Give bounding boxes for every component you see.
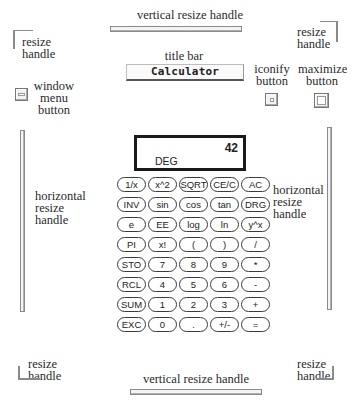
display-angle-mode: DEG	[155, 155, 178, 167]
key-tan[interactable]: tan	[210, 197, 239, 212]
top-vertical-resize-handle[interactable]	[110, 26, 242, 32]
iconify-button-label: iconify button	[252, 63, 292, 87]
key-divide[interactable]: /	[241, 237, 270, 252]
key-decimal[interactable]: .	[179, 317, 208, 332]
label-line: handle	[35, 214, 86, 226]
key-sin[interactable]: sin	[148, 197, 177, 212]
window-menu-button[interactable]	[15, 88, 28, 101]
key-cos[interactable]: cos	[179, 197, 208, 212]
title-bar-label: title bar	[126, 50, 242, 62]
key-open-paren[interactable]: (	[179, 237, 208, 252]
key-4[interactable]: 4	[148, 277, 177, 292]
key-reciprocal[interactable]: 1/x	[117, 177, 146, 192]
bottom-left-resize-handle[interactable]	[18, 366, 40, 380]
top-right-resize-label: resize handle	[297, 26, 330, 50]
key-5[interactable]: 5	[179, 277, 208, 292]
key-clear-entry[interactable]: CE/C	[210, 177, 239, 192]
right-horizontal-resize-handle[interactable]	[327, 127, 332, 310]
iconify-button[interactable]	[265, 93, 278, 106]
label-line: button	[32, 104, 76, 116]
key-2[interactable]: 2	[179, 297, 208, 312]
key-add[interactable]: +	[241, 297, 270, 312]
title-bar[interactable]: Calculator	[126, 64, 244, 81]
iconify-icon	[270, 98, 274, 102]
label-line: handle	[297, 38, 330, 50]
key-pi[interactable]: PI	[117, 237, 146, 252]
key-all-clear[interactable]: AC	[241, 177, 270, 192]
key-3[interactable]: 3	[210, 297, 239, 312]
label-line: button	[252, 75, 292, 87]
key-negate[interactable]: +/-	[210, 317, 239, 332]
key-e[interactable]: e	[117, 217, 146, 232]
maximize-button[interactable]	[314, 93, 329, 108]
label-line: button	[298, 75, 346, 87]
label-line: handle	[22, 48, 55, 60]
window-menu-icon	[18, 93, 25, 96]
right-horizontal-resize-label: horizontal resize handle	[273, 184, 324, 220]
label-line: handle	[273, 208, 324, 220]
key-log[interactable]: log	[179, 217, 208, 232]
display-value: 42	[225, 141, 238, 155]
key-equals[interactable]: =	[241, 317, 270, 332]
key-store[interactable]: STO	[117, 257, 146, 272]
key-8[interactable]: 8	[179, 257, 208, 272]
bottom-right-resize-handle[interactable]	[316, 366, 334, 380]
calculator-display: 42 DEG	[134, 135, 246, 171]
maximize-button-label: maximize button	[298, 63, 346, 87]
left-horizontal-resize-label: horizontal resize handle	[35, 190, 86, 226]
key-subtract[interactable]: -	[241, 277, 270, 292]
key-exchange[interactable]: EXC	[117, 317, 146, 332]
key-7[interactable]: 7	[148, 257, 177, 272]
key-inverse[interactable]: INV	[117, 197, 146, 212]
key-drg[interactable]: DRG	[241, 197, 270, 212]
key-close-paren[interactable]: )	[210, 237, 239, 252]
key-1[interactable]: 1	[148, 297, 177, 312]
top-vertical-resize-label: vertical resize handle	[110, 9, 270, 21]
key-exponent[interactable]: EE	[148, 217, 177, 232]
key-square[interactable]: x^2	[148, 177, 177, 192]
key-ln[interactable]: ln	[210, 217, 239, 232]
key-sqrt[interactable]: SQRT	[179, 177, 208, 192]
window-menu-button-label: window menu button	[32, 80, 76, 116]
key-0[interactable]: 0	[148, 317, 177, 332]
key-6[interactable]: 6	[210, 277, 239, 292]
bottom-vertical-resize-label: vertical resize handle	[130, 373, 262, 385]
key-recall[interactable]: RCL	[117, 277, 146, 292]
key-factorial[interactable]: x!	[148, 237, 177, 252]
top-left-resize-label: resize handle	[22, 36, 55, 60]
maximize-icon	[317, 96, 326, 105]
key-multiply[interactable]: *	[241, 257, 270, 272]
bottom-vertical-resize-handle[interactable]	[130, 389, 262, 395]
key-sum[interactable]: SUM	[117, 297, 146, 312]
key-power[interactable]: y^x	[241, 217, 270, 232]
key-9[interactable]: 9	[210, 257, 239, 272]
left-horizontal-resize-handle[interactable]	[20, 130, 25, 312]
